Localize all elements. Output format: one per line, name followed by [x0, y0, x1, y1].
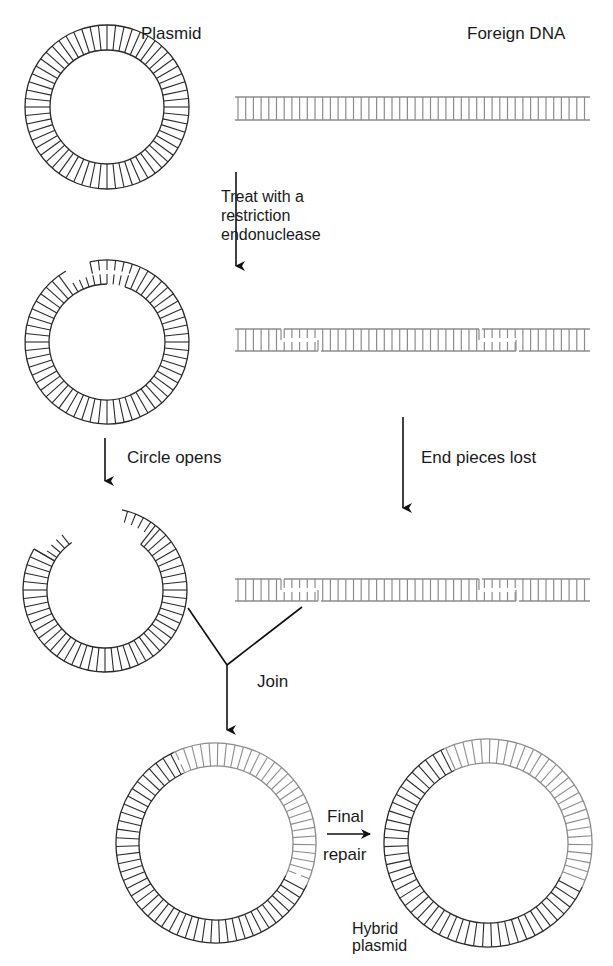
hybrid-plasmid-label: Hybrid plasmid	[352, 920, 407, 954]
foreign-dna-fragment	[235, 579, 590, 601]
join-connector	[188, 607, 302, 730]
foreign-dna-label: Foreign DNA	[467, 24, 565, 43]
open-plasmid	[23, 510, 187, 672]
plasmid-circle	[25, 25, 189, 189]
hybrid-plasmid-circle	[384, 739, 592, 947]
joined-hybrid-circle	[116, 743, 316, 943]
cloning-diagram	[0, 0, 613, 966]
repair-label: repair	[323, 845, 366, 864]
foreign-dna-strand	[235, 97, 590, 120]
join-label: Join	[257, 672, 288, 691]
circle-opens-label: Circle opens	[127, 448, 222, 467]
cut-foreign-dna-strand	[235, 329, 590, 351]
final-label: Final	[327, 807, 364, 826]
end-pieces-lost-label: End pieces lost	[421, 448, 536, 467]
cut-plasmid-circle	[25, 260, 189, 424]
plasmid-label: Plasmid	[141, 24, 201, 43]
treat-step-label: Treat with a restriction endonuclease	[221, 187, 321, 244]
